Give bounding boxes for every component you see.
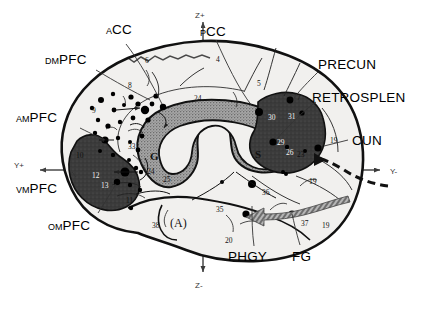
- amygdala-label: (A): [170, 216, 187, 230]
- brain-diagram-svg: (A) G S: [0, 0, 426, 312]
- axis-label-z-negative: Z-: [195, 281, 203, 290]
- callosum-genu-label: G: [150, 150, 159, 162]
- axis-label-y-negative: Y-: [390, 167, 398, 176]
- axis-label-y-positive: Y+: [14, 161, 24, 170]
- axis-label-z-positive: Z+: [195, 11, 205, 20]
- callosum-splenium-label: S: [255, 148, 261, 160]
- retrosplenial-dark-region: [250, 92, 326, 173]
- figure-canvas: (A) G S: [0, 0, 426, 312]
